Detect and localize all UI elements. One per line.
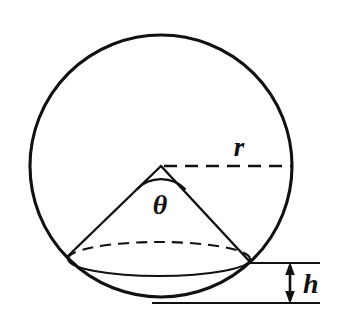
cone-base-back-arc xyxy=(68,242,250,259)
height-label: h xyxy=(303,268,319,299)
cone-base-front-arc xyxy=(68,259,250,276)
radius-label: r xyxy=(234,132,245,162)
cone-right-slant xyxy=(161,166,251,263)
angle-label: θ xyxy=(153,189,168,220)
figure-canvas: r θ h xyxy=(0,0,338,330)
geometry-figure: r θ h xyxy=(0,0,338,330)
